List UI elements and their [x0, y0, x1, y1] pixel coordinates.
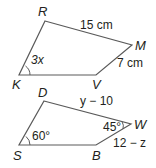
- diagram-canvas: R M V K 15 cm 7 cm 3x D W B S y − 10 12 …: [0, 0, 156, 168]
- angle-S-arc: [26, 137, 30, 146]
- vertex-label-W: W: [134, 117, 148, 132]
- figure-RMVK: R M V K 15 cm 7 cm 3x: [12, 4, 146, 92]
- vertex-label-R: R: [38, 4, 47, 19]
- vertex-label-S: S: [13, 148, 22, 163]
- side-label-MV: 7 cm: [117, 56, 143, 70]
- angle-label-K: 3x: [31, 53, 45, 67]
- vertex-label-D: D: [38, 85, 47, 100]
- angle-K-arc: [26, 66, 31, 75]
- side-label-WB: 12 − z: [113, 136, 146, 150]
- side-label-DW: y − 10: [80, 94, 113, 108]
- vertex-label-V: V: [92, 77, 102, 92]
- angle-label-S: 60°: [32, 129, 50, 143]
- figure-DWBS: D W B S y − 10 12 − z 60° 45°: [13, 85, 148, 163]
- vertex-label-K: K: [12, 77, 22, 92]
- side-label-RM: 15 cm: [80, 18, 113, 32]
- angle-label-W: 45°: [103, 120, 121, 134]
- angle-W-arc: [122, 122, 123, 129]
- vertex-label-M: M: [135, 38, 146, 53]
- vertex-label-B: B: [92, 148, 101, 163]
